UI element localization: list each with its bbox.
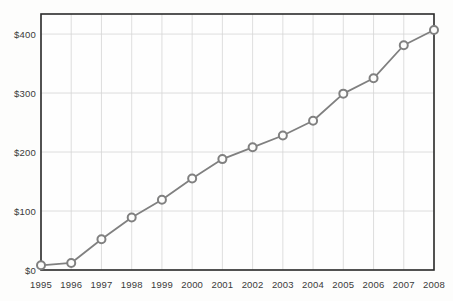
- x-axis-tick-label: 1996: [60, 279, 82, 290]
- data-point-marker: [430, 26, 438, 34]
- y-axis-tick-label: $200: [14, 147, 36, 158]
- data-point-marker: [249, 143, 257, 151]
- plot-area-background: [41, 14, 434, 270]
- x-axis-tick-label: 2000: [181, 279, 203, 290]
- line-chart-figure: $0$100$200$300$400 199519961997199819992…: [0, 0, 453, 301]
- data-point-marker: [97, 235, 105, 243]
- y-axis-tick-label: $300: [14, 88, 36, 99]
- x-axis-tick-label: 2002: [242, 279, 264, 290]
- data-point-marker: [279, 132, 287, 140]
- y-axis-tick-label: $100: [14, 206, 36, 217]
- x-axis-tick-label: 2007: [393, 279, 415, 290]
- data-point-marker: [67, 259, 75, 267]
- x-axis-tick-label: 1999: [151, 279, 173, 290]
- x-axis-tick-label: 1998: [121, 279, 143, 290]
- data-point-marker: [218, 155, 226, 163]
- y-axis-tick-label: $400: [14, 29, 36, 40]
- data-point-marker: [188, 175, 196, 183]
- chart-canvas: [0, 0, 453, 301]
- x-axis-tick-label: 2006: [363, 279, 385, 290]
- y-axis-tick-label: $0: [25, 265, 36, 276]
- data-point-marker: [309, 117, 317, 125]
- x-axis-tick-label: 1997: [90, 279, 112, 290]
- x-axis-tick-label: 1995: [30, 279, 52, 290]
- data-point-marker: [158, 196, 166, 204]
- data-point-marker: [128, 214, 136, 222]
- x-axis-tick-label: 2005: [332, 279, 354, 290]
- x-axis-tick-label: 2003: [272, 279, 294, 290]
- data-point-marker: [339, 90, 347, 98]
- x-axis-tick-label: 2004: [302, 279, 324, 290]
- x-axis-tick-label: 2008: [423, 279, 445, 290]
- data-point-marker: [370, 74, 378, 82]
- data-point-marker: [400, 41, 408, 49]
- chart-screenshot: $0$100$200$300$400 199519961997199819992…: [0, 0, 453, 301]
- x-axis-tick-label: 2001: [211, 279, 233, 290]
- data-point-marker: [37, 261, 45, 269]
